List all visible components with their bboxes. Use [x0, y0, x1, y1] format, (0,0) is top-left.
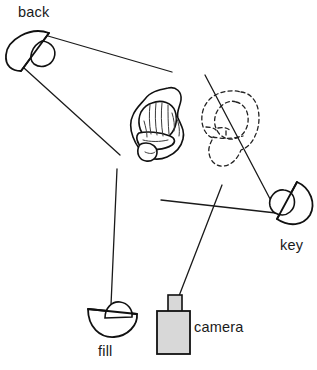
back-light-label: back: [18, 4, 50, 20]
fill-light-label: fill: [98, 343, 113, 359]
shadow-head-ghost: [202, 91, 259, 166]
back-light-fixture[interactable]: [6, 31, 55, 71]
camera-fixture[interactable]: [157, 295, 190, 354]
fill-light-beam: [111, 169, 117, 305]
lighting-diagram: back: [0, 0, 317, 370]
key-light-fixture[interactable]: [270, 182, 313, 224]
key-light-label: key: [280, 237, 304, 253]
subject-head: [131, 88, 184, 162]
shadow-head-detail-3: [206, 127, 216, 130]
back-light-ray-lower: [24, 68, 120, 155]
fill-light-ray: [111, 169, 117, 305]
back-light-ray-upper: [48, 36, 172, 72]
shadow-head-detail-1: [218, 128, 231, 131]
shadow-head-outline: [202, 91, 259, 166]
lighting-diagram-canvas: back: [0, 0, 317, 370]
shadow-head-inner: [215, 101, 249, 139]
fill-light-fixture[interactable]: [88, 302, 137, 337]
camera-label: camera: [194, 319, 244, 335]
key-light-ray-secondary: [161, 200, 276, 213]
fill-light-bulb-icon: [105, 302, 132, 318]
subject-chin: [138, 143, 157, 161]
key-light-ray-main: [205, 75, 279, 216]
camera-body: [157, 311, 190, 354]
